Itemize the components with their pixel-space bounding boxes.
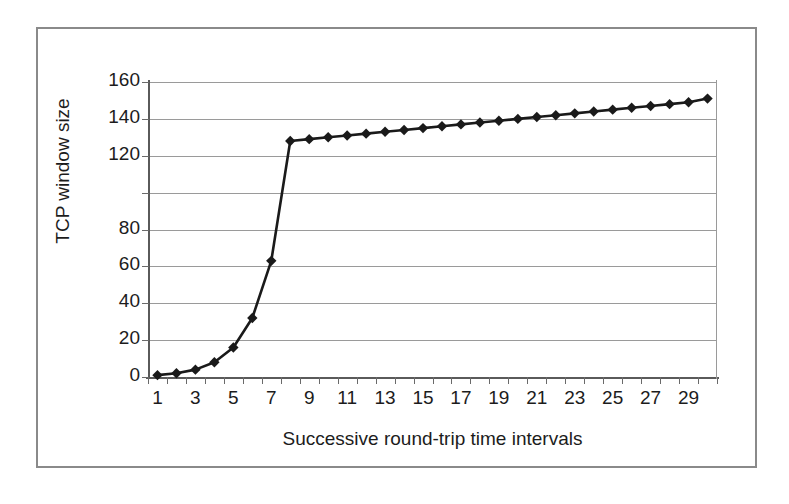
x-tick-mark <box>262 377 263 384</box>
x-tick-mark <box>470 377 471 384</box>
x-tick-label: 7 <box>266 387 277 409</box>
x-tick-label: 29 <box>678 387 699 409</box>
y-tick-label: 60 <box>119 253 140 275</box>
x-tick-mark <box>224 377 225 384</box>
y-tick-mark <box>142 340 149 341</box>
x-tick-mark <box>243 377 244 384</box>
x-tick-mark <box>641 377 642 384</box>
x-tick-label: 3 <box>190 387 201 409</box>
y-tick-mark <box>142 156 149 157</box>
y-tick-label: 0 <box>129 364 140 386</box>
x-tick-mark <box>527 377 528 384</box>
x-tick-mark <box>357 377 358 384</box>
x-tick-mark <box>565 377 566 384</box>
x-tick-label: 1 <box>152 387 163 409</box>
y-tick-mark <box>142 303 149 304</box>
x-tick-label: 21 <box>526 387 547 409</box>
gridline <box>148 156 717 157</box>
gridline <box>148 266 717 267</box>
x-tick-mark <box>148 377 149 384</box>
y-axis-title: TCP window size <box>52 56 74 286</box>
chart-root: 020406080120140160 135791113151719212325… <box>0 0 789 504</box>
x-tick-mark <box>660 377 661 384</box>
x-tick-label: 11 <box>337 387 357 409</box>
x-tick-mark <box>489 377 490 384</box>
x-tick-mark <box>546 377 547 384</box>
plot-right-edge <box>716 80 717 379</box>
y-tick-mark <box>142 266 149 267</box>
y-tick-label: 160 <box>108 69 140 91</box>
x-tick-mark <box>584 377 585 384</box>
y-axis-tick-labels: 020406080120140160 <box>88 0 140 504</box>
y-tick-mark <box>142 230 149 231</box>
x-tick-label: 25 <box>602 387 623 409</box>
x-tick-mark <box>205 377 206 384</box>
x-tick-mark <box>622 377 623 384</box>
x-tick-mark <box>698 377 699 384</box>
gridline <box>148 230 717 231</box>
x-tick-mark <box>679 377 680 384</box>
gridline <box>148 340 717 341</box>
x-tick-label: 9 <box>304 387 315 409</box>
y-tick-mark <box>142 82 149 83</box>
x-tick-mark <box>717 377 718 384</box>
y-tick-mark <box>142 119 149 120</box>
gridline <box>148 193 717 194</box>
x-tick-label: 13 <box>375 387 396 409</box>
x-tick-label: 17 <box>450 387 471 409</box>
y-tick-label: 120 <box>108 143 140 165</box>
x-tick-mark <box>167 377 168 384</box>
x-tick-mark <box>395 377 396 384</box>
y-tick-label: 20 <box>119 327 140 349</box>
x-tick-mark <box>281 377 282 384</box>
x-tick-label: 5 <box>228 387 239 409</box>
y-tick-label: 140 <box>108 106 140 128</box>
gridline <box>148 303 717 304</box>
x-tick-mark <box>376 377 377 384</box>
x-tick-label: 27 <box>640 387 661 409</box>
x-tick-label: 23 <box>564 387 585 409</box>
x-tick-mark <box>414 377 415 384</box>
x-tick-mark <box>433 377 434 384</box>
y-tick-label: 40 <box>119 290 140 312</box>
x-axis-title: Successive round-trip time intervals <box>148 428 717 450</box>
x-tick-label: 19 <box>488 387 509 409</box>
x-tick-mark <box>338 377 339 384</box>
gridline <box>148 82 717 83</box>
gridline <box>148 119 717 120</box>
x-tick-mark <box>508 377 509 384</box>
x-tick-mark <box>319 377 320 384</box>
y-tick-mark <box>142 193 149 194</box>
x-tick-mark <box>186 377 187 384</box>
x-tick-mark <box>603 377 604 384</box>
x-tick-mark <box>451 377 452 384</box>
x-tick-label: 15 <box>412 387 433 409</box>
y-tick-label: 80 <box>119 217 140 239</box>
x-tick-mark <box>300 377 301 384</box>
